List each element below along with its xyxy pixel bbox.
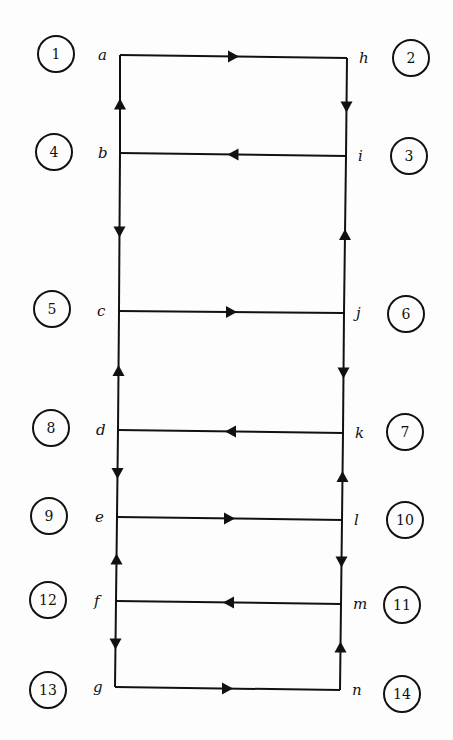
node-label-n: n (352, 681, 362, 699)
step-circle-12: 12 (30, 582, 66, 618)
arrow-down-icon (110, 639, 122, 650)
step-circle-14: 14 (384, 676, 420, 712)
arrow-down-icon (338, 368, 350, 379)
step-circle-3: 3 (391, 138, 427, 174)
step-circle-4: 4 (36, 134, 72, 170)
step-number: 13 (39, 682, 57, 698)
node-label-d: d (96, 421, 106, 439)
step-number: 5 (48, 301, 57, 317)
step-number: 1 (52, 46, 61, 62)
step-number: 6 (402, 306, 411, 322)
step-circle-5: 5 (34, 291, 70, 327)
step-circle-1: 1 (38, 36, 74, 72)
node-label-e: e (95, 508, 104, 526)
arrow-right-icon (222, 683, 233, 695)
step-number: 4 (50, 144, 59, 160)
arrow-down-icon (114, 227, 126, 238)
node-label-a: a (98, 46, 107, 64)
arrow-up-icon (335, 642, 347, 653)
step-number: 14 (393, 686, 411, 702)
arrow-left-icon (225, 426, 236, 438)
node-label-l: l (354, 511, 359, 529)
step-number: 3 (405, 148, 414, 164)
arrow-down-icon (112, 468, 124, 479)
step-circle-11: 11 (384, 587, 420, 623)
arrow-down-icon (341, 102, 353, 113)
step-number: 8 (47, 420, 56, 436)
step-number: 11 (393, 597, 411, 613)
arrow-up-icon (114, 99, 126, 110)
step-circles-layer: 1243568791012111314 (30, 36, 429, 712)
step-number: 9 (45, 508, 54, 524)
arrow-right-icon (224, 513, 235, 525)
node-label-j: j (353, 304, 361, 322)
flow-diagram: abcdefghijklmn 1243568791012111314 (0, 0, 453, 740)
step-number: 12 (39, 592, 57, 608)
step-circle-6: 6 (388, 296, 424, 332)
step-circle-13: 13 (30, 672, 66, 708)
node-label-g: g (93, 678, 103, 696)
step-circle-8: 8 (33, 410, 69, 446)
step-circle-7: 7 (387, 414, 423, 450)
arrow-left-icon (228, 149, 239, 161)
arrow-up-icon (113, 365, 125, 376)
arrows-layer (110, 51, 353, 695)
node-label-h: h (359, 49, 369, 67)
edges-layer (115, 55, 347, 690)
arrow-left-icon (223, 597, 234, 609)
arrow-up-icon (337, 471, 349, 482)
node-label-b: b (98, 144, 108, 162)
node-label-i: i (358, 147, 363, 165)
step-number: 2 (407, 50, 416, 66)
node-label-f: f (93, 592, 102, 610)
node-label-m: m (353, 595, 367, 613)
step-circle-10: 10 (387, 502, 423, 538)
node-label-c: c (97, 302, 106, 320)
step-circle-2: 2 (393, 40, 429, 76)
arrow-up-icon (339, 229, 351, 240)
node-label-k: k (355, 424, 364, 442)
arrow-right-icon (226, 306, 237, 318)
step-circle-9: 9 (31, 498, 67, 534)
arrow-down-icon (336, 557, 348, 568)
step-number: 7 (401, 424, 410, 440)
arrow-up-icon (111, 554, 123, 565)
step-number: 10 (396, 512, 414, 528)
arrow-right-icon (228, 51, 239, 63)
